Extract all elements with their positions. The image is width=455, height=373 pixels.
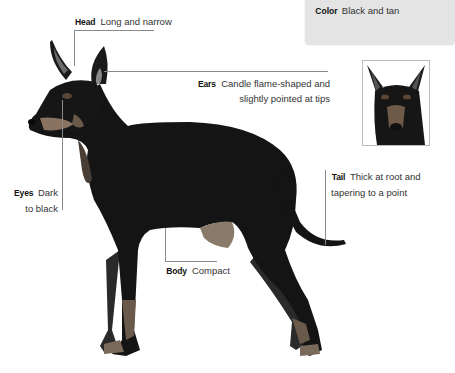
eyes-heading: Eyes: [14, 186, 33, 199]
body-leader-line-v: [165, 228, 166, 261]
head-annotation: HeadLong and narrow: [74, 15, 172, 28]
tail-annotation: TailThick at root and tapering to a poin…: [331, 170, 421, 199]
head-heading: Head: [75, 15, 95, 28]
tail-text-line2: tapering to a point: [331, 186, 421, 199]
head-leader-line-v: [74, 30, 75, 66]
tail-heading: Tail: [332, 170, 345, 183]
ears-text-line2: slightly pointed at tips: [165, 92, 330, 105]
eyes-text-line2: to black: [0, 202, 58, 215]
ears-text-line1: Candle flame-shaped and: [221, 78, 330, 89]
body-annotation: BodyCompact: [165, 264, 230, 277]
eyes-annotation: EyesDark to black: [0, 186, 58, 215]
eyes-leader-line: [62, 100, 63, 210]
ears-leader-line: [104, 71, 328, 72]
body-heading: Body: [166, 264, 187, 277]
head-text: Long and narrow: [100, 16, 171, 27]
body-leader-line-h: [165, 261, 217, 262]
body-text: Compact: [192, 265, 230, 276]
ears-annotation: EarsCandle flame-shaped and slightly poi…: [165, 77, 330, 105]
tail-text-line1: Thick at root and: [350, 171, 421, 182]
ears-heading: Ears: [198, 77, 216, 90]
head-leader-line-h: [74, 30, 154, 31]
tail-leader-line: [325, 170, 326, 245]
eyes-text-line1: Dark: [38, 187, 58, 198]
